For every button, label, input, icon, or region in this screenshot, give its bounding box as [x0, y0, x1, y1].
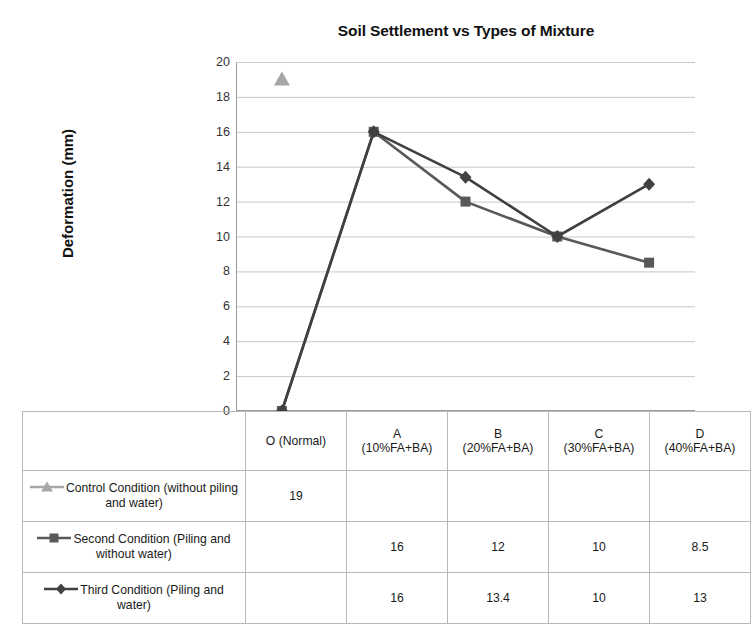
category-header-2: B(20%FA+BA) — [448, 412, 549, 471]
series-1-marker-2 — [461, 197, 471, 207]
table-header-row: O (Normal)A(10%FA+BA)B(20%FA+BA)C(30%FA+… — [23, 412, 751, 471]
y-tick-label-8: 8 — [200, 265, 230, 278]
data-cell-s2-c3: 10 — [549, 573, 650, 624]
category-letter-1: A — [351, 427, 443, 441]
data-cell-s2-c0 — [246, 573, 347, 624]
data-cell-s1-c3: 10 — [549, 522, 650, 573]
data-cell-s1-c1: 16 — [347, 522, 448, 573]
series-0-marker-0 — [274, 71, 290, 85]
legend-label-0: Control Condition (without piling and wa… — [66, 481, 238, 510]
chart-plot-svg — [236, 62, 695, 411]
y-tick-label-6: 6 — [200, 300, 230, 313]
y-axis-tick-labels: 20181614121086420 — [196, 62, 230, 411]
category-header-4: D(40%FA+BA) — [650, 412, 751, 471]
series-row-0: Control Condition (without piling and wa… — [23, 471, 751, 522]
chart-title: Soil Settlement vs Types of Mixture — [236, 22, 696, 40]
data-cell-s2-c4: 13 — [650, 573, 751, 624]
data-cell-s0-c3 — [549, 471, 650, 522]
category-formula-0: O (Normal) — [250, 434, 342, 448]
y-tick-label-2: 2 — [200, 370, 230, 383]
data-cell-s1-c4: 8.5 — [650, 522, 751, 573]
category-header-3: C(30%FA+BA) — [549, 412, 650, 471]
y-tick-label-20: 20 — [200, 56, 230, 69]
data-cell-s0-c0: 19 — [246, 471, 347, 522]
legend-label-1: Second Condition (Piling and without wat… — [73, 532, 230, 561]
table-header-corner — [23, 412, 246, 471]
legend-item-1[interactable]: Second Condition (Piling and without wat… — [23, 522, 246, 573]
category-letter-4: D — [654, 427, 746, 441]
category-header-0: O (Normal) — [246, 412, 347, 471]
series-2-marker-4 — [643, 178, 655, 191]
legend-item-2[interactable]: Third Condition (Piling and water) — [23, 573, 246, 624]
series-1-marker-4 — [644, 258, 654, 268]
legend-diamond-icon — [44, 583, 78, 595]
category-formula-4: (40%FA+BA) — [654, 441, 746, 455]
series-row-2: Third Condition (Piling and water)1613.4… — [23, 573, 751, 624]
y-tick-label-4: 4 — [200, 335, 230, 348]
legend-label-2: Third Condition (Piling and water) — [80, 583, 224, 612]
y-tick-label-12: 12 — [200, 196, 230, 209]
series-2-marker-2 — [460, 171, 472, 184]
data-cell-s2-c2: 13.4 — [448, 573, 549, 624]
data-cell-s0-c4 — [650, 471, 751, 522]
data-cell-s1-c2: 12 — [448, 522, 549, 573]
data-cell-s2-c1: 16 — [347, 573, 448, 624]
y-tick-label-10: 10 — [200, 231, 230, 244]
category-formula-2: (20%FA+BA) — [452, 441, 544, 455]
series-row-1: Second Condition (Piling and without wat… — [23, 522, 751, 573]
legend-item-0[interactable]: Control Condition (without piling and wa… — [23, 471, 246, 522]
category-formula-3: (30%FA+BA) — [553, 441, 645, 455]
y-axis-title: Deformation (mm) — [59, 94, 76, 294]
plot-area — [236, 62, 695, 411]
data-cell-s0-c1 — [347, 471, 448, 522]
data-legend-table: O (Normal)A(10%FA+BA)B(20%FA+BA)C(30%FA+… — [22, 411, 751, 624]
y-tick-label-16: 16 — [200, 126, 230, 139]
legend-triangle-icon — [30, 481, 64, 493]
category-header-1: A(10%FA+BA) — [347, 412, 448, 471]
category-letter-3: C — [553, 427, 645, 441]
y-tick-label-14: 14 — [200, 161, 230, 174]
data-cell-s1-c0 — [246, 522, 347, 573]
category-letter-2: B — [452, 427, 544, 441]
data-cell-s0-c2 — [448, 471, 549, 522]
category-formula-1: (10%FA+BA) — [351, 441, 443, 455]
y-tick-label-18: 18 — [200, 91, 230, 104]
legend-square-icon — [37, 532, 71, 544]
